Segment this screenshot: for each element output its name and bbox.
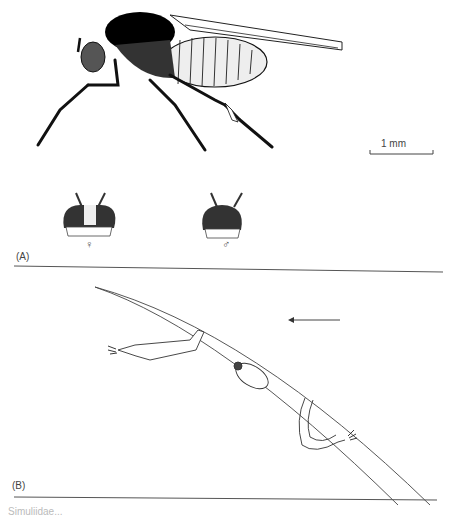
adult-fly-illustration (38, 12, 342, 150)
panel-a-label: (A) (16, 251, 29, 262)
female-head-illustration (63, 193, 115, 236)
direction-arrow (288, 317, 340, 323)
panel-divider (14, 266, 443, 272)
scale-bar-label: 1 mm (381, 138, 406, 149)
panel-b-label: (B) (12, 480, 25, 491)
male-head-illustration (202, 193, 242, 238)
female-symbol: ♀ (85, 238, 93, 250)
larva-1 (108, 330, 204, 360)
figure-canvas (0, 0, 449, 515)
scale-bar (370, 150, 433, 154)
panel-divider-bottom (14, 497, 437, 500)
caption-text: Simuliidae... (8, 506, 62, 515)
leaf-blade-illustration (95, 287, 430, 505)
pupa (231, 358, 272, 394)
male-symbol: ♂ (222, 238, 230, 250)
larva-2 (299, 398, 357, 449)
